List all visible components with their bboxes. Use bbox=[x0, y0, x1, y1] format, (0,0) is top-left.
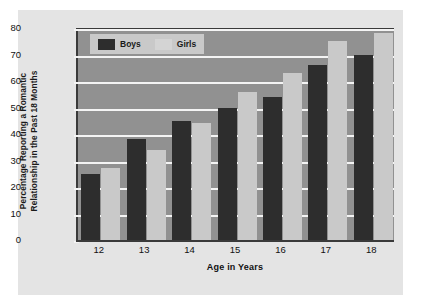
chart-figure-panel: Percentage Reporting a Romantic Relation… bbox=[18, 10, 403, 295]
x-axis-tick-label-12: 12 bbox=[79, 244, 119, 255]
y-axis-tick-label: 50 bbox=[1, 102, 21, 113]
y-axis-tick-label: 20 bbox=[1, 181, 21, 192]
y-axis-tick bbox=[74, 29, 79, 31]
y-axis-tick-label: 40 bbox=[1, 128, 21, 139]
bar-girls-age-16 bbox=[283, 73, 302, 240]
y-axis-tick-label: 70 bbox=[1, 49, 21, 60]
x-axis-tick-label-16: 16 bbox=[260, 244, 300, 255]
plot-area: Boys Girls bbox=[76, 28, 394, 240]
y-axis-title-line-2: Relationship in the Past 18 Months bbox=[29, 71, 41, 212]
legend-swatch-girls-icon bbox=[155, 39, 172, 50]
bar-girls-age-15 bbox=[238, 92, 257, 240]
x-axis-tick-label-14: 14 bbox=[170, 244, 210, 255]
y-axis-tick bbox=[74, 162, 79, 164]
x-axis-tick-label-18: 18 bbox=[351, 244, 391, 255]
y-axis-tick bbox=[74, 82, 79, 84]
bar-boys-age-14 bbox=[172, 121, 191, 240]
x-axis-title: Age in Years bbox=[76, 262, 394, 272]
bar-boys-age-13 bbox=[127, 139, 146, 240]
y-axis-tick bbox=[74, 188, 79, 190]
x-axis-tick-label-15: 15 bbox=[215, 244, 255, 255]
y-axis-tick-label: 60 bbox=[1, 75, 21, 86]
y-axis-tick-label: 0 bbox=[1, 234, 21, 245]
bar-girls-age-18 bbox=[374, 33, 393, 240]
chart-legend: Boys Girls bbox=[90, 34, 204, 54]
x-axis-tick-label-17: 17 bbox=[306, 244, 346, 255]
y-axis-tick-label: 30 bbox=[1, 155, 21, 166]
legend-label-boys: Boys bbox=[120, 39, 141, 49]
y-axis-tick bbox=[74, 135, 79, 137]
legend-entry-girls: Girls bbox=[155, 39, 196, 50]
bar-boys-age-16 bbox=[263, 97, 282, 240]
legend-label-girls: Girls bbox=[177, 39, 196, 49]
bar-girls-age-12 bbox=[101, 168, 120, 240]
bar-boys-age-12 bbox=[81, 174, 100, 240]
bar-boys-age-18 bbox=[354, 55, 373, 241]
y-axis-tick-label: 80 bbox=[1, 22, 21, 33]
bar-girls-age-13 bbox=[147, 150, 166, 240]
legend-swatch-boys-icon bbox=[98, 39, 115, 50]
x-axis-line bbox=[76, 240, 394, 242]
y-axis-tick bbox=[74, 109, 79, 111]
y-axis-tick-label: 10 bbox=[1, 208, 21, 219]
gridline bbox=[78, 29, 394, 31]
legend-entry-boys: Boys bbox=[98, 39, 141, 50]
bar-boys-age-17 bbox=[308, 65, 327, 240]
bar-boys-age-15 bbox=[218, 108, 237, 241]
x-axis-tick-label-13: 13 bbox=[124, 244, 164, 255]
bar-girls-age-14 bbox=[192, 123, 211, 240]
bar-girls-age-17 bbox=[328, 41, 347, 240]
y-axis-tick bbox=[74, 215, 79, 217]
y-axis-tick bbox=[74, 56, 79, 58]
